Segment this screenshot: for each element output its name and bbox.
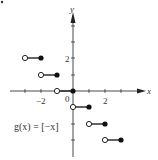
x-tick-label-2: 2 [103,96,108,106]
x-axis-arrow-icon [137,89,146,94]
x-axis-label: x [146,86,151,96]
origin-label: 0 [65,94,70,104]
list-marker-dot [1,1,3,3]
y-tick-label-2: 2 [65,54,70,64]
step-function-graph: y x 2 −2 2 0 g(x) = [−x] [0,0,158,160]
y-axis-label: y [69,4,74,14]
x-tick-label-neg2: −2 [36,96,46,106]
function-label: g(x) = [−x] [14,121,59,133]
